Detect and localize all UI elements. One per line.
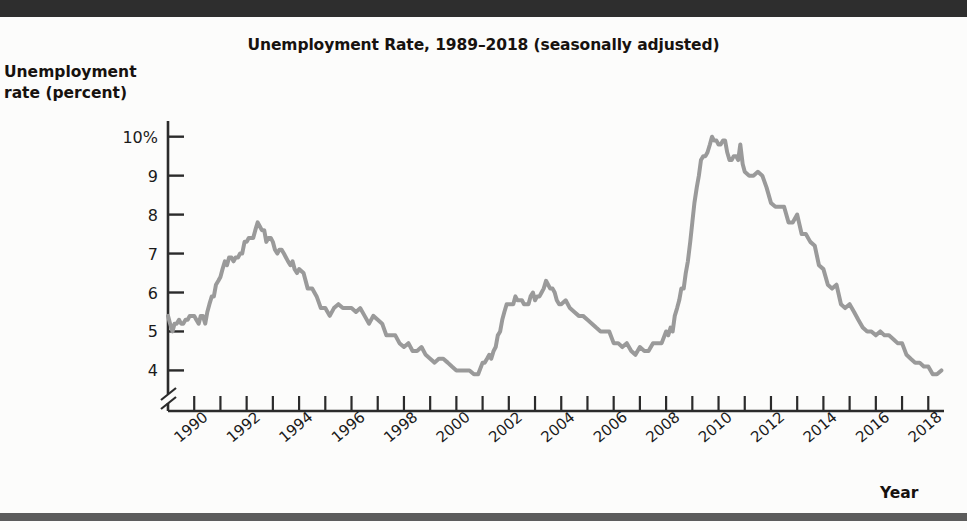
x-axis-title: Year (880, 484, 918, 502)
x-tick-label-1994: 1994 (275, 408, 316, 446)
x-tick-label-2004: 2004 (538, 408, 579, 446)
x-tick-label-2018: 2018 (905, 408, 946, 446)
y-tick-marks (168, 137, 184, 371)
x-tick-label-1992: 1992 (223, 408, 264, 446)
x-tick-label-2012: 2012 (747, 408, 788, 446)
x-tick-label-2006: 2006 (590, 408, 631, 446)
y-axis-group: 45678910% (122, 121, 184, 411)
page-bottom-rule (0, 513, 967, 521)
series-line-unemployment-rate (168, 137, 941, 375)
y-tick-label-9: 9 (148, 167, 158, 186)
x-axis-group: 1990199219941996199820002002200420062008… (168, 396, 945, 446)
y-tick-label-6: 6 (148, 284, 158, 303)
x-tick-label-1996: 1996 (328, 408, 369, 446)
x-tick-label-2016: 2016 (852, 408, 893, 446)
y-tick-label-4: 4 (148, 361, 158, 380)
chart-plot: 45678910% 199019921994199619982000200220… (0, 0, 967, 530)
y-tick-label-5: 5 (148, 322, 158, 341)
x-tick-label-2002: 2002 (485, 408, 526, 446)
x-tick-label-2014: 2014 (800, 408, 841, 446)
x-tick-label-2008: 2008 (642, 408, 683, 446)
figure-container: Unemployment Rate, 1989–2018 (seasonally… (0, 0, 967, 530)
y-tick-label-10%: 10% (122, 128, 158, 147)
y-tick-label-7: 7 (148, 245, 158, 264)
y-tick-label-8: 8 (148, 206, 158, 225)
x-tick-label-2010: 2010 (695, 408, 736, 446)
x-tick-label-1990: 1990 (171, 408, 212, 446)
y-tick-labels: 45678910% (122, 128, 158, 381)
x-tick-labels: 1990199219941996199820002002200420062008… (171, 408, 946, 446)
x-tick-label-2000: 2000 (433, 408, 474, 446)
x-tick-label-1998: 1998 (380, 408, 421, 446)
